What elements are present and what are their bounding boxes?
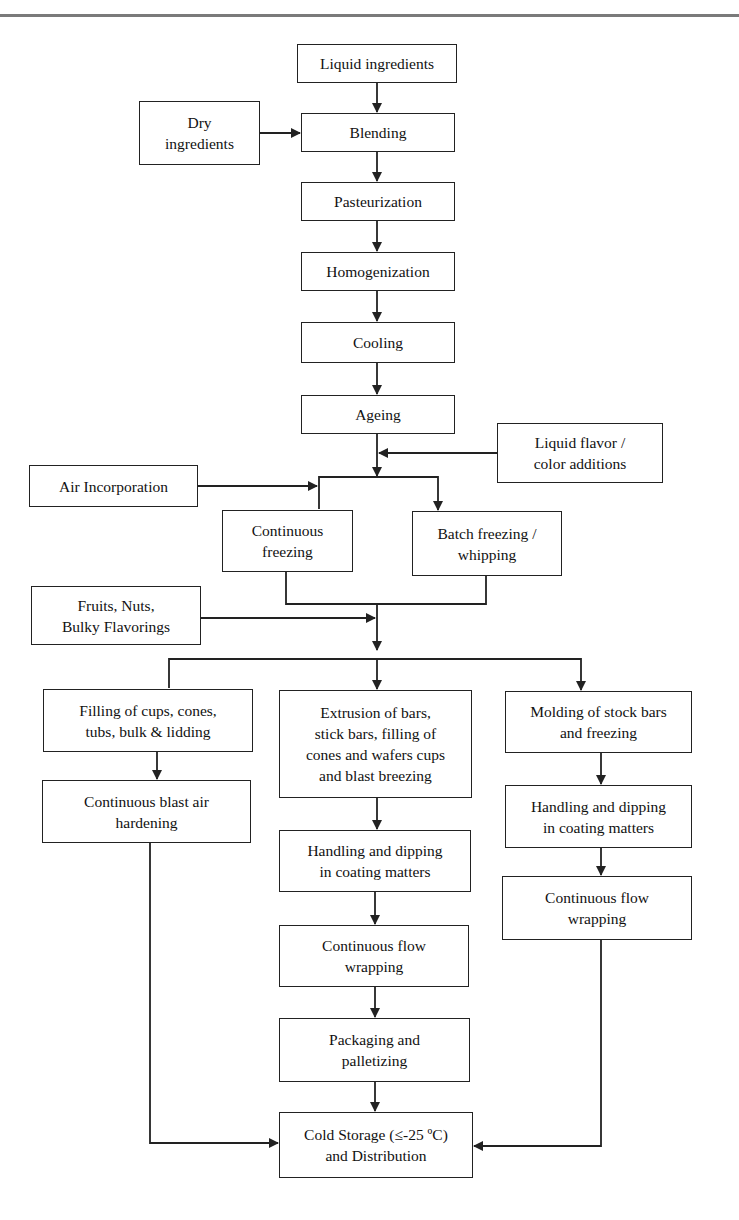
node-extrusion: Extrusion of bars, stick bars, filling o…: [279, 690, 472, 798]
node-label: Continuous blast air hardening: [84, 791, 209, 833]
node-label: Extrusion of bars, stick bars, filling o…: [306, 702, 445, 786]
node-label: Continuous flow wrapping: [545, 887, 649, 929]
node-label: Dry ingredients: [165, 112, 234, 154]
node-fruits-nuts: Fruits, Nuts, Bulky Flavorings: [31, 586, 201, 645]
node-label: Handling and dipping in coating matters: [307, 840, 442, 882]
node-label: Ageing: [355, 404, 401, 425]
node-handling-right: Handling and dipping in coating matters: [505, 785, 692, 848]
node-label: Liquid flavor / color additions: [534, 432, 627, 474]
node-air-incorporation: Air Incorporation: [29, 465, 198, 507]
node-label: Air Incorporation: [59, 476, 168, 497]
node-label: Handling and dipping in coating matters: [531, 796, 666, 838]
node-homogenization: Homogenization: [301, 252, 455, 291]
node-liquid-ingredients: Liquid ingredients: [297, 44, 457, 83]
node-label: Packaging and palletizing: [329, 1029, 420, 1071]
node-flow-wrapping-mid: Continuous flow wrapping: [279, 925, 469, 987]
node-label: Cold Storage (≤-25 ºC) and Distribution: [304, 1124, 448, 1166]
node-ageing: Ageing: [301, 395, 455, 434]
node-label: Molding of stock bars and freezing: [530, 701, 666, 743]
node-dry-ingredients: Dry ingredients: [139, 101, 260, 165]
node-label: Pasteurization: [334, 191, 422, 212]
node-cold-storage: Cold Storage (≤-25 ºC) and Distribution: [279, 1112, 473, 1178]
node-liquid-flavor: Liquid flavor / color additions: [497, 423, 663, 483]
node-handling-mid: Handling and dipping in coating matters: [279, 830, 471, 892]
node-label: Homogenization: [326, 261, 429, 282]
node-label: Batch freezing / whipping: [438, 523, 537, 565]
node-batch-freezing: Batch freezing / whipping: [412, 511, 562, 576]
node-packaging: Packaging and palletizing: [279, 1018, 470, 1082]
node-label: Liquid ingredients: [320, 53, 434, 74]
node-label: Cooling: [353, 332, 403, 353]
node-label: Continuous freezing: [252, 520, 323, 562]
node-label: Fruits, Nuts, Bulky Flavorings: [62, 595, 170, 637]
node-label: Blending: [350, 122, 407, 143]
node-molding: Molding of stock bars and freezing: [505, 691, 692, 753]
node-blending: Blending: [301, 113, 455, 152]
node-blast-hardening: Continuous blast air hardening: [42, 780, 251, 843]
node-filling: Filling of cups, cones, tubs, bulk & lid…: [43, 689, 253, 752]
node-label: Filling of cups, cones, tubs, bulk & lid…: [79, 700, 216, 742]
node-flow-wrapping-right: Continuous flow wrapping: [502, 876, 692, 940]
node-pasteurization: Pasteurization: [301, 182, 455, 221]
flowchart-canvas: Liquid ingredients Dry ingredients Blend…: [0, 0, 739, 1220]
node-label: Continuous flow wrapping: [322, 935, 426, 977]
node-continuous-freezing: Continuous freezing: [222, 510, 353, 572]
node-cooling: Cooling: [301, 322, 455, 363]
